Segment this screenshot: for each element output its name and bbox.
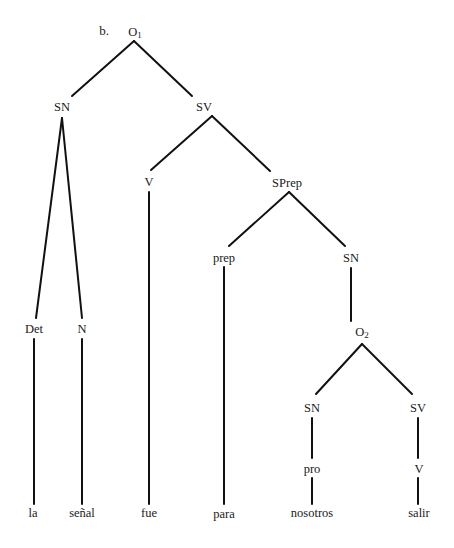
node-label: V: [414, 462, 423, 476]
node-label: O: [355, 325, 364, 339]
tree-edges: [0, 0, 454, 548]
node-label: pro: [304, 462, 321, 476]
node-label: N: [77, 322, 86, 336]
tree-edge: [212, 116, 270, 171]
tree-edge: [151, 116, 212, 170]
node-pro: pro: [304, 463, 321, 476]
tree-edge: [134, 41, 192, 96]
node-label: SV: [196, 100, 212, 114]
node-sn3: SN: [304, 402, 320, 415]
leaf-word: para: [213, 508, 235, 521]
tree-edge: [289, 192, 345, 246]
node-v1: V: [144, 176, 153, 189]
tree-edge: [229, 192, 289, 246]
node-label: SN: [304, 401, 320, 415]
node-sprep: SPrep: [272, 177, 302, 190]
node-o2: O2: [355, 326, 369, 340]
tree-edge: [362, 344, 412, 394]
node-sv2: SV: [410, 402, 426, 415]
node-subscript: 1: [137, 30, 142, 40]
leaf-word: fue: [141, 507, 157, 520]
node-n: N: [77, 323, 86, 336]
node-det: Det: [25, 323, 43, 336]
node-sn1: SN: [54, 101, 70, 114]
leaf-word: señal: [69, 507, 95, 520]
leaf-word: nosotros: [291, 507, 333, 520]
tree-edge: [62, 118, 82, 318]
node-label: prep: [213, 251, 235, 265]
node-label: SPrep: [272, 176, 302, 190]
node-label: Det: [25, 322, 43, 336]
node-label: SN: [54, 100, 70, 114]
node-v2: V: [414, 463, 423, 476]
leaf-word: la: [28, 507, 37, 520]
node-sv1: SV: [196, 101, 212, 114]
example-label: b.: [99, 23, 109, 39]
node-label: V: [144, 175, 153, 189]
node-label: SV: [410, 401, 426, 415]
node-sn2: SN: [343, 252, 359, 265]
node-label: SN: [343, 251, 359, 265]
leaf-word: salir: [408, 507, 430, 520]
node-label: O: [128, 25, 137, 39]
node-prep: prep: [213, 252, 235, 265]
tree-edge: [36, 118, 62, 318]
tree-edge: [316, 344, 362, 394]
node-o1: O1: [128, 26, 142, 40]
tree-edge: [72, 41, 134, 96]
node-subscript: 2: [364, 330, 369, 340]
